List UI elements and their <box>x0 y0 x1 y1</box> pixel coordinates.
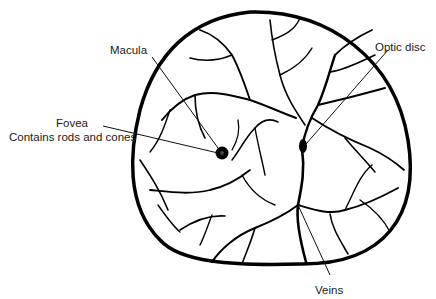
macula-label: Macula <box>110 44 147 57</box>
retina-diagram <box>0 0 436 299</box>
fovea-center <box>220 151 224 155</box>
optic-disc-label: Optic disc <box>375 41 426 54</box>
veins-label: Veins <box>315 284 343 297</box>
optic-disc <box>299 139 307 153</box>
fovea-note-label: Contains rods and cones <box>9 131 136 144</box>
fovea-label: Fovea <box>56 117 88 130</box>
macula-pointer <box>152 57 218 148</box>
optic-disc-pointer <box>306 50 388 144</box>
